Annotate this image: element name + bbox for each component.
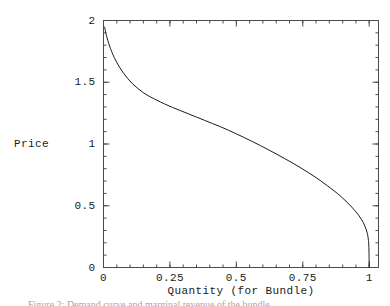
y-tick-label: 0	[0, 262, 96, 274]
y-tick-label: 2	[0, 15, 96, 27]
x-axis-ticks	[104, 21, 370, 268]
figure-caption: Figure 2: Demand curve and marginal reve…	[28, 299, 270, 306]
y-axis-ticks	[104, 21, 379, 268]
x-tick-label: 0.25	[156, 272, 184, 284]
x-axis-title: Quantity (for Bundle)	[167, 285, 314, 297]
y-tick-label: 1.5	[0, 76, 96, 88]
chart-figure: 00.250.50.751 00.511.52 Quantity (for Bu…	[0, 0, 390, 306]
plot-canvas	[0, 0, 390, 306]
x-tick-label: 0.75	[289, 272, 317, 284]
plot-frame	[104, 21, 379, 268]
y-axis-title: Price	[14, 138, 49, 150]
x-tick-label: 0	[100, 272, 107, 284]
demand-curve	[105, 27, 370, 268]
y-tick-label: 0.5	[0, 200, 96, 212]
x-tick-label: 0.5	[226, 272, 247, 284]
x-tick-label: 1	[366, 272, 373, 284]
